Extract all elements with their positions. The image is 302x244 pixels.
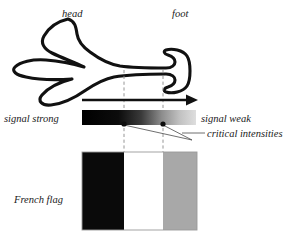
french-flag-group <box>82 152 197 230</box>
label-critical-intensities: critical intensities <box>207 128 283 139</box>
figure-canvas: head foot signal strong signal weak crit… <box>0 0 302 244</box>
leader-line-right <box>163 125 192 140</box>
signal-gradient-bar <box>82 110 196 125</box>
hydra-body-outline <box>14 19 190 105</box>
flag-band-gray <box>163 152 197 230</box>
french-flag-diagram: head foot signal strong signal weak crit… <box>0 0 302 244</box>
critical-dot-right <box>160 121 165 126</box>
label-signal-weak: signal weak <box>201 113 251 124</box>
arrow-head-icon <box>186 95 198 106</box>
label-french-flag: French flag <box>13 194 63 205</box>
organism-outline-group <box>14 19 190 105</box>
flag-band-black <box>82 152 124 230</box>
flag-band-white <box>124 152 163 230</box>
label-foot: foot <box>172 8 189 19</box>
gradient-direction-arrow <box>82 95 198 106</box>
label-head: head <box>62 8 83 19</box>
label-signal-strong: signal strong <box>4 113 59 124</box>
leader-line-left <box>124 125 192 140</box>
critical-dot-left <box>121 121 126 126</box>
